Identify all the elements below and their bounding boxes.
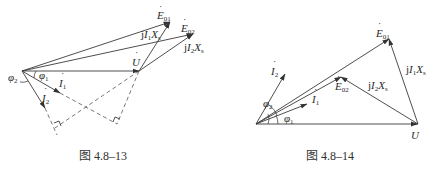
e01-phasor: [22, 22, 170, 71]
label-e01: ˙ E01: [375, 21, 390, 41]
phi1-arc: [34, 71, 36, 78]
label-ji2xs: jI2Xs: [367, 79, 388, 93]
i2-extension-dashed: [45, 108, 57, 135]
label-ji1xs: jI1Xs: [140, 28, 161, 42]
label-phi1: φ1: [284, 112, 294, 126]
label-ji1xs: jI1Xs: [405, 63, 426, 77]
svg-text:I2: I2: [270, 65, 279, 79]
caption-figure-4-8-13: 图 4.8–13: [79, 149, 127, 163]
label-i2: ˙ I2: [41, 86, 50, 106]
label-phi2: φ2: [263, 97, 273, 111]
label-phi2: φ2: [8, 71, 18, 85]
i1-extension-dashed: [60, 93, 117, 124]
svg-text:E01: E01: [375, 27, 390, 41]
phi1-arc: [276, 115, 278, 124]
right-angle-mark-2: [54, 121, 61, 126]
figure-4-8-13: ˙ E01 ˙ E02 jI1Xs jI2Xs ˙ U ˙ I1 ˙ I2 φ1…: [8, 4, 204, 163]
svg-text:φ1: φ1: [284, 112, 294, 126]
label-i2: ˙ I2: [270, 59, 279, 79]
i2-phasor: [256, 74, 285, 124]
label-ji2xs: jI2Xs: [183, 41, 204, 55]
u-to-i2-perpendicular-dashed: [55, 71, 139, 128]
label-u: ˙ U: [132, 50, 141, 68]
svg-text:φ2: φ2: [263, 97, 273, 111]
phi2-arc: [20, 81, 28, 82]
e02-phasor: [22, 34, 193, 71]
svg-text:jI2Xs: jI2Xs: [367, 79, 388, 93]
ji1xs-phasor: [389, 39, 418, 124]
figure-4-8-14: ˙ E01 ˙ E02 jI1Xs jI2Xs ˙ U ˙ I1 ˙ I2 φ1…: [256, 21, 426, 163]
svg-text:E02: E02: [334, 80, 349, 94]
svg-text:jI1Xs: jI1Xs: [405, 63, 426, 77]
svg-text:I2: I2: [41, 92, 50, 106]
svg-text:E02: E02: [180, 22, 195, 36]
svg-text:jI2Xs: jI2Xs: [183, 41, 204, 55]
svg-text:U: U: [411, 129, 420, 141]
caption-figure-4-8-14: 图 4.8–14: [306, 149, 354, 163]
phasor-diagrams: ˙ E01 ˙ E02 jI1Xs jI2Xs ˙ U ˙ I1 ˙ I2 φ1…: [0, 0, 434, 172]
label-e02: ˙ E02: [180, 17, 195, 36]
svg-text:I1: I1: [311, 93, 320, 107]
svg-text:E01: E01: [156, 9, 171, 23]
svg-text:jI1Xs: jI1Xs: [140, 28, 161, 42]
u-to-i1-perpendicular-dashed: [117, 71, 139, 124]
svg-text:U: U: [132, 56, 141, 68]
label-i1: ˙ I1: [58, 71, 67, 91]
svg-text:I1: I1: [58, 77, 67, 91]
svg-text:φ2: φ2: [8, 71, 18, 85]
label-e01: ˙ E01: [156, 4, 171, 23]
